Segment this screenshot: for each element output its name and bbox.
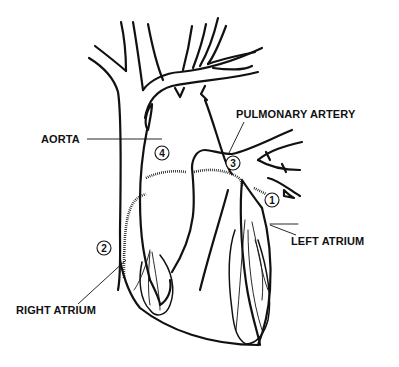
pulmonary-leader [228, 122, 244, 155]
label-pulmonary-artery: PULMONARY ARTERY [236, 108, 356, 120]
label-aorta: AORTA [41, 133, 80, 145]
label-right-atrium: RIGHT ATRIUM [16, 304, 96, 316]
heart-diagram: 1 2 3 4 AORTA PULMONARY ARTERY LEFT ATRI… [0, 0, 399, 367]
marker-3: 3 [226, 156, 240, 170]
left-atrium-leader [270, 225, 296, 235]
label-left-atrium: LEFT ATRIUM [291, 235, 364, 247]
marker-1: 1 [265, 193, 279, 207]
svg-text:1: 1 [269, 195, 275, 206]
aorta [140, 100, 232, 280]
svg-text:3: 3 [230, 158, 236, 169]
coronary-vessels-right [134, 250, 173, 315]
marker-4: 4 [155, 146, 169, 160]
svg-text:4: 4 [159, 148, 165, 159]
marker-2: 2 [97, 241, 111, 255]
svg-text:2: 2 [101, 243, 107, 254]
